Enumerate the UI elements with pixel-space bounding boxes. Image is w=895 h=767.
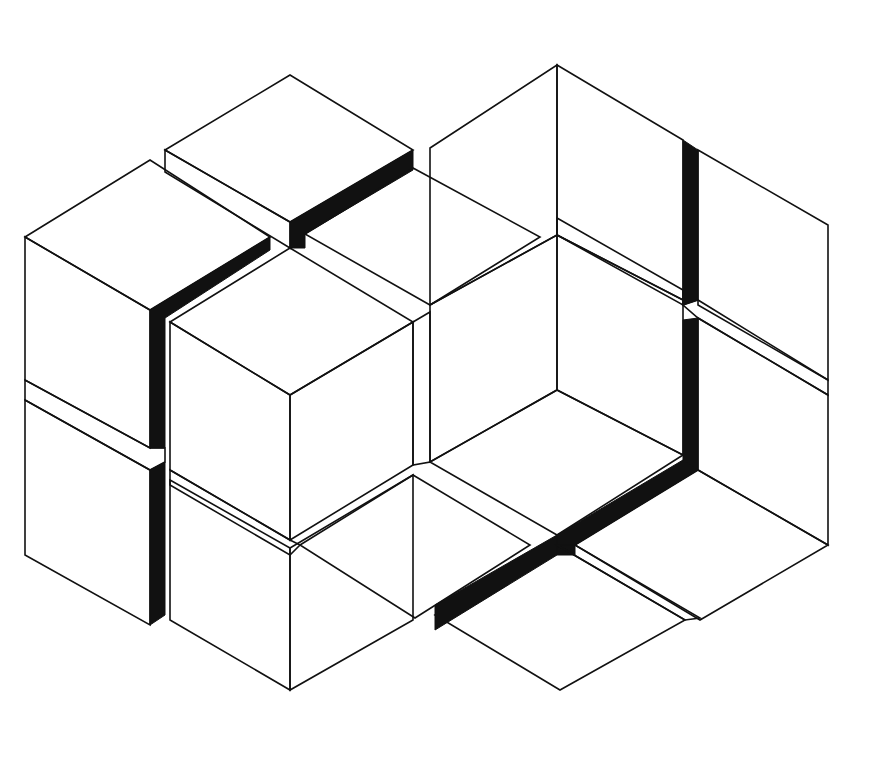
cube-right-upper [683, 140, 828, 395]
isometric-cube-illusion [0, 0, 895, 767]
cube-bottom-slab [435, 535, 700, 690]
cube-upper-left [25, 160, 270, 448]
cube-right-lower [557, 318, 828, 620]
cube-right-hollow [430, 65, 683, 535]
cube-lower-left [25, 380, 165, 625]
cube-top-left [165, 75, 413, 248]
